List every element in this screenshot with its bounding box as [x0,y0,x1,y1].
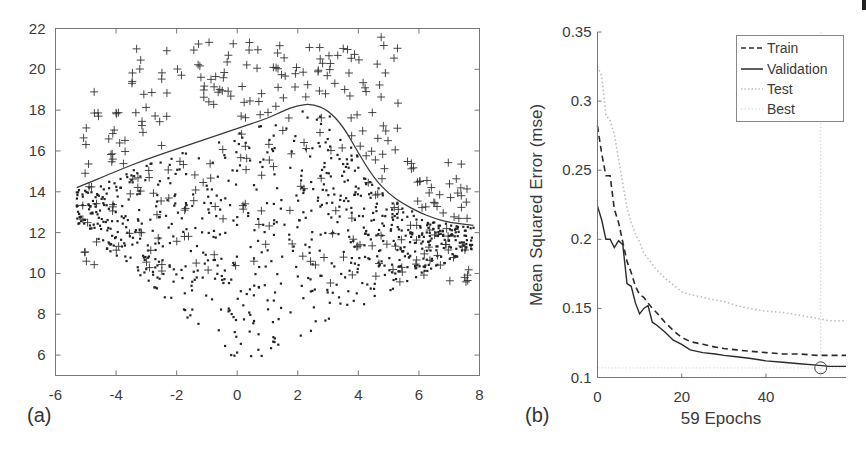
corner-mark [862,0,866,10]
svg-text:40: 40 [758,388,775,405]
svg-text:10: 10 [29,264,46,281]
y-axis-ticks: 6810121416182022 [29,20,480,364]
svg-text:20: 20 [29,60,46,77]
svg-text:14: 14 [29,183,46,200]
svg-text:8: 8 [37,305,45,322]
legend-train-label: Train [767,40,798,56]
svg-text:-2: -2 [170,386,183,403]
legend-best-label: Best [767,101,795,117]
svg-text:20: 20 [673,388,690,405]
svg-text:4: 4 [354,386,362,403]
scatter-chart: -6-4-202468 6810121416182022 [0,0,500,458]
svg-text:12: 12 [29,224,46,241]
svg-text:6: 6 [415,386,423,403]
legend-validation-label: Validation [767,61,827,77]
scatter-points [76,33,475,357]
x-axis-ticks: 02040 [593,374,774,405]
svg-text:6: 6 [37,346,45,363]
svg-text:18: 18 [29,101,46,118]
y-axis-label: Mean Squared Error (mse) [527,104,546,306]
svg-text:-6: -6 [49,386,62,403]
svg-text:0.15: 0.15 [562,299,591,316]
svg-text:22: 22 [29,20,46,37]
svg-text:0: 0 [233,386,241,403]
legend-test-label: Test [767,81,793,97]
svg-text:16: 16 [29,142,46,159]
svg-text:0: 0 [593,388,601,405]
training-performance-chart: 02040 0.10.150.20.250.30.35 Mean Squared… [500,0,866,458]
svg-text:0.2: 0.2 [571,230,592,247]
panel-label-b: (b) [525,404,549,427]
svg-text:0.25: 0.25 [562,161,591,178]
svg-text:8: 8 [475,386,483,403]
x-axis-label: 59 Epochs [681,409,761,428]
svg-text:0.1: 0.1 [571,369,592,386]
x-axis-ticks: -6-4-202468 [49,29,484,403]
y-axis-ticks: 0.10.150.20.250.30.35 [562,23,601,386]
decision-boundary [77,104,474,225]
axes-box [56,29,480,376]
train-curve [598,126,847,355]
svg-text:0.3: 0.3 [571,92,592,109]
panel-label-a: (a) [27,404,51,427]
svg-text:2: 2 [294,386,302,403]
svg-text:0.35: 0.35 [562,23,591,40]
legend: Train Validation Test Best [737,36,844,122]
svg-text:-4: -4 [109,386,122,403]
